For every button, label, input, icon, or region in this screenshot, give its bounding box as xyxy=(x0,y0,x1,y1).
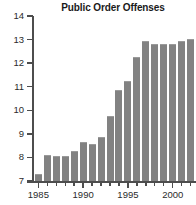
bar xyxy=(151,44,158,181)
y-tick-label: 10 xyxy=(0,105,24,115)
bar xyxy=(124,81,131,181)
x-tick-mark-minor xyxy=(145,182,146,186)
x-axis-line xyxy=(27,181,196,183)
y-tick-label: 13 xyxy=(0,35,24,45)
y-tick-label: 9 xyxy=(0,129,24,139)
x-tick-mark-major xyxy=(172,182,173,188)
bar xyxy=(35,174,42,181)
bar xyxy=(44,155,51,181)
y-tick-label: 7 xyxy=(0,176,24,186)
public-order-offenses-bar-chart: Public Order Offenses 7891011121314 1985… xyxy=(0,0,196,205)
bar xyxy=(71,151,78,181)
x-tick-mark-minor xyxy=(154,182,155,186)
plot-area xyxy=(33,16,196,181)
bar xyxy=(107,116,114,181)
x-tick-mark-minor xyxy=(47,182,48,186)
chart-title: Public Order Offenses xyxy=(30,1,196,14)
x-tick-mark-minor xyxy=(181,182,182,186)
bar xyxy=(62,156,69,181)
bar xyxy=(98,137,105,181)
x-tick-label: 1990 xyxy=(63,189,103,200)
x-tick-mark-minor xyxy=(109,182,110,186)
x-tick-mark-minor xyxy=(65,182,66,186)
bar xyxy=(169,44,176,181)
x-tick-mark-major xyxy=(127,182,128,188)
bar xyxy=(53,156,60,181)
x-tick-label: 1985 xyxy=(18,189,58,200)
x-tick-mark-minor xyxy=(190,182,191,186)
x-tick-label: 1995 xyxy=(108,189,148,200)
x-tick-mark-minor xyxy=(136,182,137,186)
y-tick-label: 8 xyxy=(0,152,24,162)
y-tick-label: 14 xyxy=(0,11,24,21)
bar xyxy=(89,144,96,181)
bar xyxy=(115,90,122,181)
y-tick-label: 12 xyxy=(0,58,24,68)
x-tick-mark-major xyxy=(82,182,83,188)
x-tick-label: 2000 xyxy=(153,189,193,200)
x-tick-mark-minor xyxy=(118,182,119,186)
x-tick-mark-minor xyxy=(91,182,92,186)
bar xyxy=(187,39,194,181)
x-tick-mark-minor xyxy=(163,182,164,186)
x-tick-mark-minor xyxy=(56,182,57,186)
x-tick-mark-major xyxy=(38,182,39,188)
bar xyxy=(160,44,167,181)
bar xyxy=(80,142,87,181)
x-tick-mark-minor xyxy=(73,182,74,186)
x-tick-mark-minor xyxy=(100,182,101,186)
bar xyxy=(133,57,140,181)
y-tick-label: 11 xyxy=(0,82,24,92)
bar xyxy=(178,41,185,181)
bar xyxy=(142,41,149,181)
